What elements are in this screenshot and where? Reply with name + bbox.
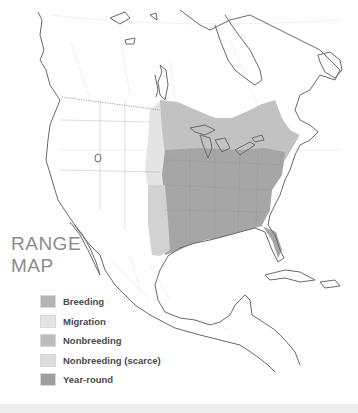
migration-swatch-icon [40, 315, 56, 328]
bottom-strip [0, 404, 358, 413]
legend-label: Breeding [63, 296, 104, 307]
legend: Breeding Migration Nonbreeding Nonbreedi… [40, 292, 161, 390]
legend-label: Year-round [63, 374, 113, 385]
range-fill [145, 100, 300, 258]
title-line-1: RANGE [11, 233, 81, 255]
legend-label: Migration [63, 316, 106, 327]
nonbreeding-swatch-icon [40, 334, 56, 347]
legend-item-nonbreeding-scarce: Nonbreeding (scarce) [40, 351, 161, 371]
legend-label: Nonbreeding [63, 335, 122, 346]
breeding-swatch-icon [40, 295, 56, 308]
us-canada-border [62, 97, 160, 110]
nonbreeding-scarce-swatch-icon [40, 354, 56, 367]
year-round-swatch-icon [40, 373, 56, 386]
legend-label: Nonbreeding (scarce) [63, 355, 161, 366]
title-line-2: MAP [11, 255, 81, 277]
legend-item-nonbreeding: Nonbreeding [40, 331, 161, 351]
legend-item-breeding: Breeding [40, 292, 161, 312]
legend-item-year-round: Year-round [40, 370, 161, 390]
legend-item-migration: Migration [40, 312, 161, 332]
range-map-title: RANGE MAP [11, 233, 81, 277]
year-round-area [160, 148, 285, 258]
